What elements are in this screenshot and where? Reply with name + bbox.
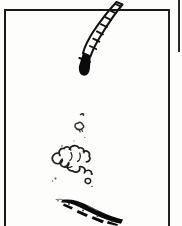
adjacent-panel-edge [178, 0, 180, 52]
ground-streak [56, 199, 123, 226]
smoke-cloud [52, 146, 92, 184]
panel-artwork [0, 0, 182, 226]
cloud-wisp-upper [75, 114, 84, 132]
ladder-strip [79, 2, 123, 76]
comic-panel-scan [0, 0, 182, 226]
